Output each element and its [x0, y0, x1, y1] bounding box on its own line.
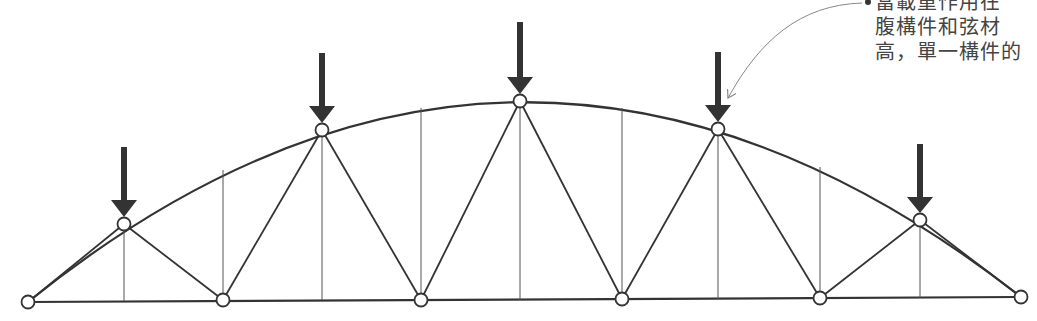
node-circle-icon — [514, 95, 527, 108]
bullet-dot-icon — [865, 0, 871, 5]
annotation-line-2: 腹構件和弦材 — [875, 15, 1037, 40]
node-circle-icon — [316, 124, 329, 137]
load-arrow-icon — [507, 22, 533, 94]
node-circle-icon — [118, 218, 131, 231]
node-circle-icon — [415, 294, 428, 307]
bottom-chord — [28, 297, 1021, 302]
annotation-line-3: 高，單一構件的 — [875, 40, 1037, 65]
load-arrows — [111, 22, 933, 217]
node-circle-icon — [1015, 291, 1028, 304]
annotation-line-1: 當載重作用在 — [875, 0, 1037, 15]
annotation-leader-arrow — [728, 3, 862, 98]
node-circle-icon — [914, 214, 927, 227]
node-circle-icon — [217, 294, 230, 307]
vertical-members — [124, 101, 920, 301]
node-circle-icon — [616, 293, 629, 306]
top-chord-arch — [28, 102, 1021, 302]
load-arrow-icon — [907, 144, 933, 213]
load-arrow-icon — [111, 147, 137, 217]
node-circle-icon — [814, 292, 827, 305]
node-circle-icon — [712, 123, 725, 136]
load-arrow-icon — [705, 52, 731, 122]
node-circle-icon — [22, 296, 35, 309]
load-arrow-icon — [309, 53, 335, 123]
diagonal-members — [28, 101, 1021, 302]
annotation-text: 當載重作用在 腹構件和弦材 高，單一構件的 — [875, 0, 1037, 65]
